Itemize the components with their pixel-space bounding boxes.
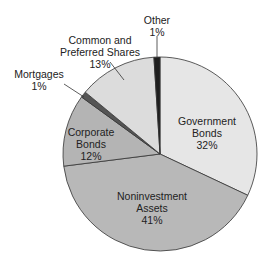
leader-mortgages <box>64 84 84 97</box>
label-government: Government Bonds 32% <box>170 115 244 151</box>
label-shares: Common and Preferred Shares 13% <box>50 34 150 70</box>
label-corporate: Corporate Bonds 12% <box>64 126 118 162</box>
label-noninvestment: Noninvestment Assets 41% <box>110 190 194 226</box>
label-mortgages: Mortgages 1% <box>12 68 66 92</box>
